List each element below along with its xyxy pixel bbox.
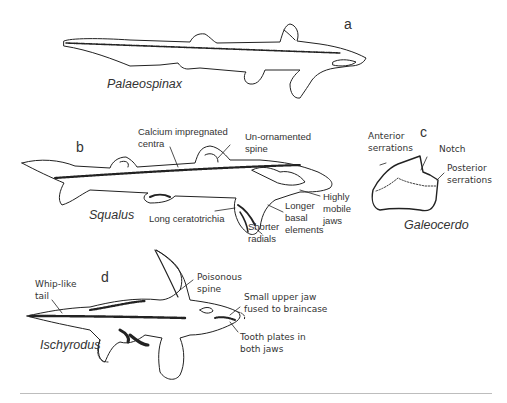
ischyrodus-drawing [27,250,245,379]
panel-d-label: d [101,271,109,283]
annotation-notch: Notch [439,143,465,155]
annotation-tooth-plates: Tooth plates in both jaws [240,331,306,355]
annotation-shorter-radials: Shorter radials [248,221,279,245]
annotation-anterior-serrations: Anterior serrations [368,130,413,154]
species-palaeospinax: Palaeospinax [107,78,182,90]
panel-b-label: b [76,141,84,153]
annotation-poisonous-spine: Poisonous spine [197,271,242,295]
bottom-divider [20,393,492,394]
annotation-mobile-jaws: Highly mobile jaws [323,191,351,227]
species-galeocerdo: Galeocerdo [404,219,469,231]
figure-canvas: a Palaeospinax b Calcium impregnated cen… [0,0,507,403]
panel-a-label: a [344,18,352,30]
galeocerdo-tooth-drawing [372,156,444,211]
panel-c-label: c [420,126,427,138]
species-ischyrodus: Ischyrodus [40,339,100,351]
annotation-calcium-centra: Calcium impregnated centra [138,126,228,150]
annotation-unornamented-spine: Un-ornamented spine [245,131,311,155]
annotation-upper-jaw-fused: Small upper jaw fused to braincase [244,291,327,315]
annotation-longer-basal: Longer basal elements [285,200,324,236]
species-squalus: Squalus [89,209,134,221]
annotation-posterior-serrations: Posterior serrations [447,162,492,186]
annotation-long-ceratotrichia: Long ceratotrichia [149,213,225,225]
annotation-whip-tail: Whip-like tail [35,278,77,302]
